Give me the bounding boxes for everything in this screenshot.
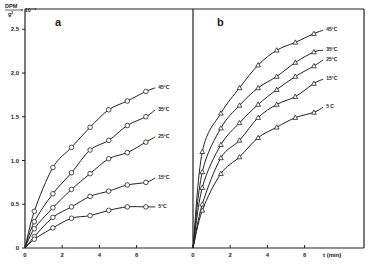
data-point-circle (51, 165, 56, 170)
ylabel-scale: × 10⁻⁴ (20, 7, 37, 13)
data-point-triangle (293, 60, 298, 64)
y-tick-label: 2.0 (11, 70, 20, 76)
data-point-circle (125, 150, 130, 155)
series-curve (193, 107, 323, 248)
data-point-circle (144, 205, 149, 210)
data-point-triangle (274, 74, 279, 78)
series-curve (25, 207, 155, 248)
data-point-circle (88, 148, 93, 153)
data-point-triangle (200, 149, 205, 153)
data-point-triangle (256, 85, 261, 89)
data-point-triangle (312, 64, 317, 68)
data-point-triangle (200, 185, 205, 189)
data-point-circle (32, 226, 37, 231)
data-point-circle (125, 99, 130, 104)
data-point-circle (106, 189, 111, 194)
y-tick-label: 0.5 (11, 201, 20, 207)
data-point-circle (106, 156, 111, 161)
data-point-circle (125, 205, 130, 210)
series-curve (193, 50, 323, 248)
series-label: 35°C (158, 106, 170, 112)
data-point-circle (125, 183, 130, 188)
panel-b-plot: 45°C35°C25°C15°C5 C (193, 26, 338, 248)
y-tick-label: 1.0 (11, 158, 20, 164)
series-curve (25, 88, 155, 248)
series-curve (25, 110, 155, 248)
data-point-circle (144, 140, 149, 145)
x-tick-label: 4 (98, 252, 102, 258)
ylabel-denominator: g² (8, 11, 13, 17)
data-point-circle (69, 205, 74, 210)
series-label: 15°C (326, 75, 338, 81)
x-axis-label: t (min) (323, 252, 341, 258)
data-point-circle (144, 180, 149, 185)
data-point-triangle (219, 126, 224, 130)
x-tick-label: 6 (135, 252, 139, 258)
panel-b-title: b (217, 16, 224, 28)
panel-a-plot: 45°C35°C25°C15°C5°C (25, 84, 170, 248)
data-point-circle (88, 171, 93, 176)
data-point-circle (106, 208, 111, 213)
data-point-circle (69, 170, 74, 175)
data-point-circle (106, 138, 111, 143)
data-point-triangle (200, 169, 205, 173)
data-point-circle (144, 114, 149, 119)
panel-a-title: a (55, 16, 62, 28)
y-axis-label: DPM g² × 10⁻⁴ (5, 3, 37, 17)
data-point-circle (51, 205, 56, 210)
series-label: 35°C (326, 46, 338, 52)
data-point-circle (106, 107, 111, 112)
data-point-circle (69, 216, 74, 221)
series-label: 45°C (158, 84, 170, 90)
series-label: 25°C (326, 56, 338, 62)
data-point-circle (32, 219, 37, 224)
data-point-circle (51, 215, 56, 220)
series-label: 5 C (326, 103, 334, 109)
data-point-circle (88, 125, 93, 130)
x-tick-label: 6 (303, 252, 307, 258)
series-label: 5°C (158, 203, 167, 209)
data-point-circle (32, 237, 37, 242)
x-tick-label: 0 (23, 252, 27, 258)
data-point-circle (88, 213, 93, 218)
x-tick-label: 2 (61, 252, 65, 258)
data-point-circle (69, 187, 74, 192)
series-label: 15°C (158, 174, 170, 180)
data-point-circle (69, 145, 74, 150)
data-point-triangle (274, 48, 279, 52)
data-point-circle (144, 89, 149, 94)
data-point-triangle (293, 74, 298, 78)
data-point-circle (88, 194, 93, 199)
data-point-triangle (312, 81, 317, 85)
y-tick-label: 0 (16, 245, 20, 251)
ylabel-numerator: DPM (5, 3, 18, 9)
y-tick-label: 2.5 (11, 26, 20, 32)
x-tick-label: 0 (191, 252, 195, 258)
y-tick-label: 1.5 (11, 114, 20, 120)
data-point-circle (51, 226, 56, 231)
series-label: 45°C (326, 26, 338, 32)
figure: DPM g² × 10⁻⁴ a b t (min) 00.51.01.52.02… (0, 0, 373, 266)
frame (25, 9, 364, 248)
x-tick-label: 2 (229, 252, 233, 258)
series-curve (25, 137, 155, 248)
data-point-circle (51, 191, 56, 196)
data-point-circle (125, 123, 130, 128)
data-point-circle (32, 209, 37, 214)
data-point-triangle (293, 94, 298, 98)
series-label: 25°C (158, 133, 170, 139)
x-tick-label: 4 (266, 252, 270, 258)
